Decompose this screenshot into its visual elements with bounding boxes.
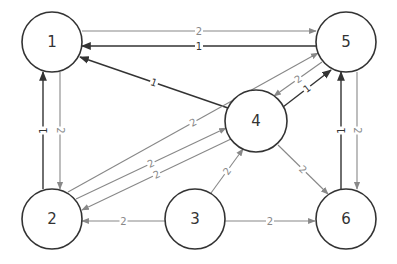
edge-3-to-6: 2	[225, 215, 315, 227]
node-label: 3	[190, 210, 200, 228]
node-label: 5	[341, 33, 351, 51]
edge-weight-label: 2	[352, 127, 363, 133]
directed-graph-canvas: 2112212212222212 123456	[0, 0, 397, 264]
edge-4-to-6: 2	[278, 145, 328, 194]
edge-6-to-5: 1	[335, 72, 347, 189]
node-4: 4	[225, 90, 287, 152]
edge-weight-label: 2	[196, 26, 202, 37]
edge-3-to-4: 2	[211, 149, 243, 193]
node-6: 6	[316, 189, 376, 249]
node-2: 2	[22, 189, 82, 249]
edge-5-to-6: 2	[351, 72, 363, 189]
node-3: 3	[165, 189, 225, 249]
edge-1-to-5: 2	[82, 25, 316, 37]
node-1: 1	[22, 12, 82, 72]
edge-4-to-5: 1	[283, 70, 331, 107]
node-label: 4	[251, 112, 261, 130]
edge-weight-label: 1	[336, 127, 347, 133]
edge-2-to-4: 2	[76, 128, 226, 199]
edge-5-to-4: 2	[274, 62, 322, 96]
edge-2-to-1: 1	[37, 72, 49, 189]
edge-4-to-1: 1	[80, 57, 228, 108]
edge-weight-label: 2	[55, 127, 66, 133]
edge-weight-label: 2	[267, 216, 273, 227]
edge-1-to-2: 2	[54, 72, 66, 189]
node-label: 2	[47, 210, 57, 228]
node-label: 6	[341, 210, 351, 228]
edge-weight-label: 1	[196, 41, 202, 52]
edge-weight-label: 1	[149, 76, 159, 88]
edge-weight-label: 2	[120, 216, 126, 227]
node-label: 1	[47, 33, 57, 51]
edge-3-to-2: 2	[82, 215, 165, 227]
node-5: 5	[316, 12, 376, 72]
edge-weight-label: 1	[38, 127, 49, 133]
edge-5-to-1: 1	[82, 40, 316, 52]
